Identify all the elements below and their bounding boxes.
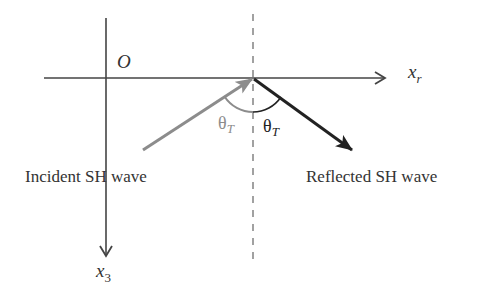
reflected-angle-label: θT bbox=[263, 116, 280, 139]
sh-wave-reflection-diagram: O xr x3 θT θT Incident SH wave Reflected… bbox=[0, 0, 503, 297]
incident-angle-arc bbox=[225, 97, 254, 113]
x3-axis-label: x3 bbox=[95, 260, 111, 285]
origin-label: O bbox=[117, 51, 131, 72]
reflected-wave-arrow bbox=[254, 79, 352, 150]
reflected-wave-label: Reflected SH wave bbox=[306, 167, 437, 186]
reflected-angle-arc bbox=[253, 97, 281, 112]
incident-angle-label: θT bbox=[218, 113, 235, 136]
xr-axis-label: xr bbox=[407, 61, 422, 86]
incident-wave-arrow bbox=[143, 79, 252, 150]
incident-wave-label: Incident SH wave bbox=[25, 167, 147, 186]
